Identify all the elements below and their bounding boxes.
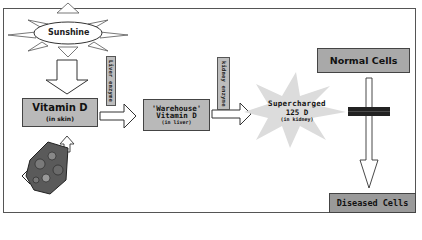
arrow-skin-to-liver [100,104,136,128]
sunshine-label: Sunshine [48,28,89,37]
diseased-cells-box: Diseased Cells [329,193,416,213]
diseased-cells-label: Diseased Cells [337,199,409,208]
arrow-normal-to-diseased [360,78,378,188]
liver-enzyme-label: Liver enzyme [108,60,114,102]
kidney-enzyme-label: kidney enzyme [221,61,227,107]
warehouse-vitamin-d-box: 'Warehouse' Vitamin D (in liver) [143,99,210,131]
kidney-enzyme-label-box: kidney enzyme [217,57,230,110]
arrow-sun-to-skin [46,60,88,94]
supercharged-text: Supercharged 125 D (in kidney) [252,100,342,123]
warehouse-sub: (in liver) [161,120,191,125]
food-basket-icon [22,142,68,194]
normal-cells-label: Normal Cells [330,56,398,66]
supercharged-sub: (in kidney) [252,117,342,123]
normal-cells-box: Normal Cells [317,48,410,73]
vitamin-d-skin-box: Vitamin D (in skin) [22,98,98,127]
vitamin-d-skin-sub: (in skin) [46,116,74,122]
liver-enzyme-label-box: Liver enzyme [106,56,116,106]
vitamin-d-skin-label: Vitamin D [32,103,87,114]
